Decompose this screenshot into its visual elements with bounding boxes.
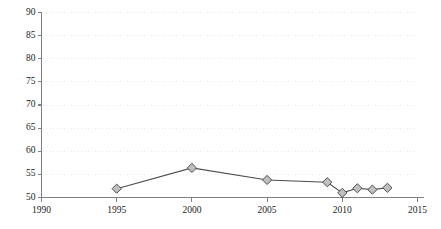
y-axis-tick-label: 60 [14, 146, 36, 156]
data-point-marker [353, 184, 362, 193]
data-point-marker [263, 175, 272, 184]
x-axis-tick-label: 1990 [22, 206, 62, 216]
x-axis-tick-label: 1995 [97, 206, 137, 216]
x-axis-tick-label: 2005 [247, 206, 287, 216]
x-axis-tick-label: 2015 [398, 206, 438, 216]
data-point-marker [323, 178, 332, 187]
y-axis-tick-label: 80 [14, 54, 36, 64]
y-axis-tick-label: 70 [14, 100, 36, 110]
x-axis-tick-label: 2010 [322, 206, 362, 216]
data-point-marker [368, 185, 377, 194]
x-axis-tick-label: 2000 [172, 206, 212, 216]
line-chart: 5055606570758085901990199520002005201020… [0, 0, 441, 229]
y-axis-tick-label: 85 [14, 31, 36, 41]
axes [38, 13, 424, 202]
data-point-marker [112, 184, 121, 193]
y-axis-tick-label: 50 [14, 193, 36, 203]
data-point-marker [383, 183, 392, 192]
data-point-marker [187, 163, 196, 172]
series-line [117, 168, 388, 193]
chart-plot-area [0, 0, 441, 229]
gridlines [43, 13, 416, 198]
y-axis-tick-label: 55 [14, 169, 36, 179]
series-1 [112, 163, 392, 197]
y-axis-tick-label: 90 [14, 8, 36, 18]
y-axis-tick-label: 65 [14, 123, 36, 133]
data-point-marker [338, 188, 347, 197]
y-axis-tick-label: 75 [14, 77, 36, 87]
